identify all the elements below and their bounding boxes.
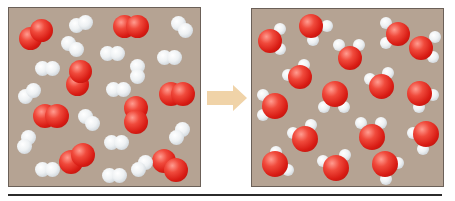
arrow-right-icon [207, 85, 247, 111]
hydrogen-molecule [100, 45, 126, 63]
oxygen-molecule [123, 96, 151, 138]
water-molecule [282, 59, 314, 93]
water-molecule [380, 17, 412, 51]
oxygen-molecule [19, 18, 55, 54]
hydrogen-molecule [78, 109, 102, 133]
water-molecule [257, 89, 289, 123]
water-molecule [333, 39, 367, 71]
water-molecule [318, 81, 352, 115]
hydrogen-molecule [106, 81, 132, 99]
water-molecule [355, 117, 389, 151]
hydrogen-molecule [35, 60, 61, 78]
water-molecule [409, 31, 443, 65]
hydrogen-molecule [16, 130, 38, 156]
hydrogen-molecule [18, 83, 42, 105]
hydrogen-molecule [171, 16, 195, 40]
oxygen-molecule [59, 141, 97, 177]
water-molecule [258, 23, 290, 55]
oxygen-molecule [33, 102, 71, 132]
water-molecule [407, 81, 441, 115]
water-molecule [317, 149, 353, 183]
hydrogen-molecule [131, 155, 155, 179]
water-molecule [372, 151, 406, 187]
hydrogen-molecule [157, 49, 183, 67]
hydrogen-molecule [35, 161, 61, 179]
water-molecule [364, 67, 398, 101]
oxygen-molecule [113, 13, 151, 41]
hydrogen-molecule [102, 167, 128, 185]
oxygen-molecule [159, 79, 197, 109]
water-molecule [299, 14, 333, 46]
hydrogen-molecule [104, 134, 130, 152]
hydrogen-molecule [169, 122, 191, 146]
products-panel [251, 8, 444, 187]
divider-line [8, 194, 442, 196]
hydrogen-molecule [61, 36, 87, 58]
oxygen-molecule [65, 60, 95, 100]
reactants-panel [8, 7, 201, 187]
oxygen-molecule [152, 149, 190, 185]
water-molecule [262, 146, 296, 180]
water-molecule [407, 121, 441, 155]
hydrogen-molecule [69, 15, 95, 35]
